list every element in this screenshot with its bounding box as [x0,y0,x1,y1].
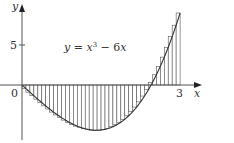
riemann-rectangle [54,85,58,115]
riemann-rectangle [65,85,69,122]
riemann-rectangle [73,85,77,126]
riemann-rectangles [22,13,180,130]
riemann-rectangle [109,85,113,127]
riemann-rectangle [58,85,62,118]
y-tick-label-5: 5 [10,39,17,52]
riemann-rectangle [121,85,125,119]
riemann-rectangle [129,85,133,112]
riemann-rectangle [46,85,50,109]
x-tick-label-0: 0 [11,87,18,100]
riemann-rectangle [141,85,145,96]
x-axis-label: x [194,87,201,100]
riemann-rectangle [125,85,129,116]
riemann-rectangle [145,85,149,90]
y-axis-arrow-icon [19,4,25,12]
x-tick-label-3: 3 [176,87,183,100]
riemann-rectangle [62,85,66,120]
riemann-rectangle [93,85,97,130]
riemann-rectangle [69,85,73,124]
riemann-rectangle [50,85,54,112]
riemann-rectangle [133,85,137,107]
riemann-rectangle [97,85,101,130]
riemann-rectangle [137,85,141,102]
equation-label: y = x3 − 6x [63,41,127,54]
riemann-rectangle [168,37,172,85]
y-axis-label: y [11,0,19,13]
riemann-rectangle [77,85,81,128]
riemann-rectangle [105,85,109,128]
riemann-rectangle [113,85,117,125]
riemann-rectangle [101,85,105,129]
riemann-rectangle [117,85,121,122]
riemann-rectangle [89,85,93,130]
riemann-rectangle [156,66,160,85]
riemann-sum-figure: y 5 0 3 x y = x3 − 6x [0,0,234,143]
riemann-rectangle [85,85,89,130]
riemann-rectangle [81,85,85,129]
